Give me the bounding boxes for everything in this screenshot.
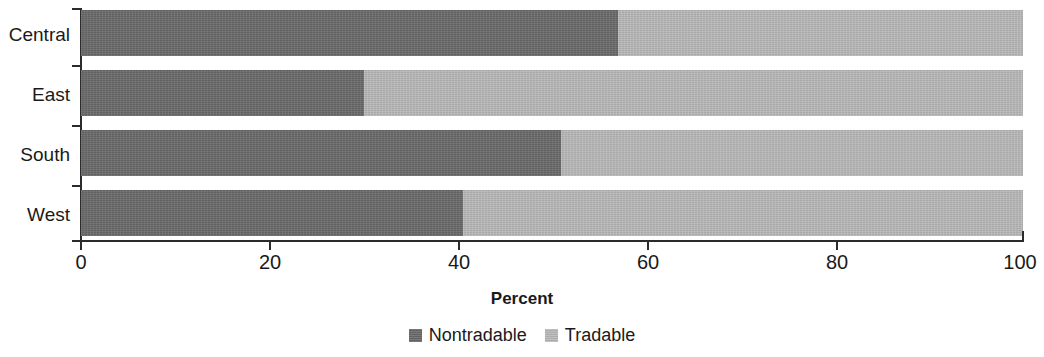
y-axis-label-east: East	[0, 85, 70, 104]
legend-swatch-icon	[545, 329, 558, 342]
x-axis-tick-label: 100	[1003, 252, 1036, 272]
y-axis-label-text: East	[32, 84, 70, 105]
bar-segment-nontradable	[81, 70, 364, 116]
x-axis-line	[80, 240, 1024, 242]
legend-item-tradable[interactable]: Tradable	[545, 326, 635, 344]
x-axis-tick	[647, 242, 649, 250]
legend-label: Tradable	[565, 326, 635, 344]
x-axis-tick	[836, 242, 838, 250]
y-axis-label-text: West	[27, 204, 70, 225]
y-axis-tick	[72, 125, 81, 127]
legend-label: Nontradable	[429, 326, 527, 344]
x-axis-tick-label: 20	[259, 252, 281, 272]
plot-area	[81, 8, 1023, 240]
chart-legend: Nontradable Tradable	[0, 326, 1044, 344]
x-axis-tick	[269, 242, 271, 250]
x-axis-tick	[80, 242, 82, 250]
bar-segment-tradable	[618, 10, 1023, 56]
x-axis-end-cap	[1022, 231, 1024, 241]
x-axis-title: Percent	[0, 289, 1044, 309]
y-axis-label-text: South	[20, 144, 70, 165]
y-axis-label-south: South	[0, 145, 70, 164]
x-axis-tick-label: 0	[75, 252, 86, 272]
x-axis-tick-label: 60	[637, 252, 659, 272]
stacked-bar-chart: Central East South West	[0, 0, 1044, 357]
y-axis-label-text: Central	[9, 24, 70, 45]
bar-segment-nontradable	[81, 10, 618, 56]
y-axis-tick	[72, 185, 81, 187]
x-axis-tick-label: 80	[826, 252, 848, 272]
bar-segment-tradable	[561, 130, 1023, 176]
bar-segment-nontradable	[81, 130, 561, 176]
x-axis-tick	[458, 242, 460, 250]
bar-segment-tradable	[364, 70, 1023, 116]
x-axis-tick-label: 40	[448, 252, 470, 272]
y-axis-label-west: West	[0, 205, 70, 224]
y-axis-tick	[72, 8, 81, 10]
bar-segment-tradable	[463, 190, 1023, 236]
legend-item-nontradable[interactable]: Nontradable	[409, 326, 527, 344]
legend-swatch-icon	[409, 329, 422, 342]
y-axis-tick	[72, 65, 81, 67]
y-axis-label-central: Central	[0, 25, 70, 44]
bar-segment-nontradable	[81, 190, 463, 236]
